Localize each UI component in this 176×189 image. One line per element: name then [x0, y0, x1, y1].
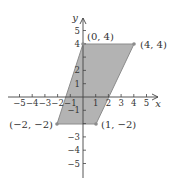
- x-tick-label: 4: [131, 98, 136, 108]
- x-tick-label: −5: [13, 98, 26, 108]
- vertex-point: [55, 122, 59, 126]
- x-axis-label: x: [155, 98, 161, 109]
- x-tick-label: 3: [118, 98, 123, 108]
- x-tick-label: 5: [144, 98, 149, 108]
- y-tick-label: −4: [67, 145, 80, 155]
- y-axis-label: y: [71, 12, 78, 23]
- y-tick-label: −1: [67, 105, 80, 115]
- y-tick-label: 2: [75, 65, 80, 75]
- y-tick-label: 4: [75, 39, 80, 49]
- x-tick-label: −3: [39, 98, 52, 108]
- x-tick-label: −2: [51, 98, 64, 108]
- vertex-point: [94, 122, 98, 126]
- y-tick-label: −5: [67, 159, 80, 169]
- vertex-point: [81, 42, 85, 46]
- y-tick-label: 1: [75, 79, 80, 89]
- coordinate-plane: −5 −4 −3 −2 −1 1 2 3 4 5 x 5 4 2 1 −1: [0, 0, 176, 189]
- y-tick-label: 5: [75, 26, 80, 36]
- x-tick-label: −4: [26, 98, 39, 108]
- y-tick-label: −3: [67, 132, 80, 142]
- vertex-label: (1, −2): [101, 119, 136, 130]
- vertex-label: (−2, −2): [9, 119, 53, 130]
- vertex-point: [132, 42, 136, 46]
- x-tick-label: 2: [106, 98, 111, 108]
- vertex-label: (0, 4): [87, 31, 114, 42]
- vertex-label: (4, 4): [140, 39, 167, 50]
- x-tick-label: 1: [93, 98, 98, 108]
